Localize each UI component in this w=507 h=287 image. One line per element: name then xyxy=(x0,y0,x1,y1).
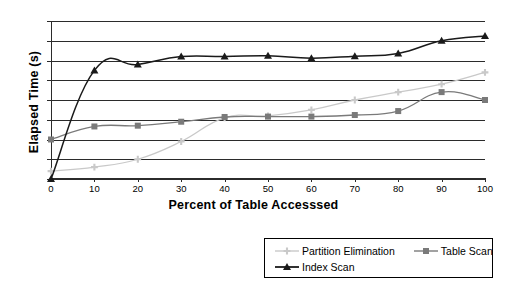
data-point-marker xyxy=(395,89,402,96)
data-point-marker xyxy=(439,89,445,95)
data-series-layer xyxy=(51,21,485,179)
legend-label-table-scan: Table Scan xyxy=(439,245,493,257)
x-tick-label: 70 xyxy=(340,183,370,194)
data-point-marker xyxy=(135,123,141,129)
data-point-marker xyxy=(284,248,291,255)
data-point-marker xyxy=(48,137,54,143)
data-point-marker xyxy=(178,138,185,145)
data-point-marker xyxy=(265,114,271,120)
data-point-marker xyxy=(134,156,141,163)
x-tick-label: 40 xyxy=(210,183,240,194)
series-partition-elimination xyxy=(48,69,489,175)
data-point-marker xyxy=(178,119,184,125)
data-point-marker xyxy=(482,69,489,76)
data-point-marker xyxy=(308,106,315,113)
x-tick-label: 80 xyxy=(383,183,413,194)
x-axis-title: Percent of Table Accesssed xyxy=(0,198,507,212)
legend-row-2: Index Scan xyxy=(265,259,492,275)
data-point-marker xyxy=(91,123,97,129)
x-tick-label: 10 xyxy=(79,183,109,194)
legend-swatch-table-scan xyxy=(413,245,439,257)
legend-swatch-partition-elimination xyxy=(274,245,300,257)
legend-item-table-scan[interactable]: Table Scan xyxy=(395,245,493,257)
legend-swatch-index-scan xyxy=(274,261,300,273)
x-tick-label: 50 xyxy=(253,183,283,194)
legend-label-index-scan: Index Scan xyxy=(300,261,355,273)
data-point-marker xyxy=(351,97,358,104)
data-point-marker xyxy=(481,32,489,39)
legend-item-partition-elimination[interactable]: Partition Elimination xyxy=(274,245,395,257)
data-point-marker xyxy=(482,97,488,103)
series-table-scan xyxy=(48,89,488,142)
data-point-marker xyxy=(91,164,98,171)
data-point-marker xyxy=(438,81,445,88)
x-tick-label: 60 xyxy=(296,183,326,194)
x-tick-label: 30 xyxy=(166,183,196,194)
x-tick-label: 0 xyxy=(36,183,66,194)
series-index-scan xyxy=(47,32,489,182)
x-tick-label: 20 xyxy=(123,183,153,194)
legend: Partition Elimination Table Scan Index S… xyxy=(264,238,493,278)
data-point-marker xyxy=(308,114,314,120)
data-point-marker xyxy=(352,112,358,118)
data-point-marker xyxy=(423,248,429,254)
x-tick-label: 100 xyxy=(470,183,500,194)
data-point-marker xyxy=(395,108,401,114)
legend-label-partition-elimination: Partition Elimination xyxy=(300,245,395,257)
y-axis-title: Elapsed Time (s) xyxy=(27,22,41,182)
data-point-marker xyxy=(222,114,228,120)
x-tick-mark xyxy=(485,178,486,182)
legend-item-index-scan[interactable]: Index Scan xyxy=(274,261,355,273)
plot-area: 0510152025303540 0102030405060708090100 xyxy=(51,21,485,179)
legend-row-1: Partition Elimination Table Scan xyxy=(265,243,492,259)
series-line xyxy=(51,72,485,171)
x-tick-label: 90 xyxy=(427,183,457,194)
chart-container: Elapsed Time (s) 0510152025303540 010203… xyxy=(0,0,507,287)
